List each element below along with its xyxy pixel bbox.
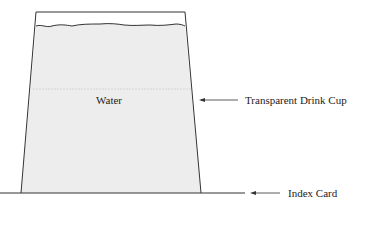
index-card-label: Index Card (288, 188, 337, 199)
water-label: Water (96, 95, 122, 106)
card-arrowhead-icon (250, 191, 256, 195)
water-fill (21, 24, 201, 193)
cup-label: Transparent Drink Cup (245, 95, 347, 106)
cup-arrowhead-icon (199, 98, 205, 102)
